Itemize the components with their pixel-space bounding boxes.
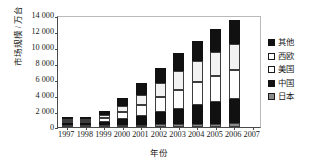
bar-segment-美国	[210, 76, 221, 102]
bar-segment-西欧	[155, 83, 166, 97]
y-tick-label: 8 000	[20, 60, 54, 68]
y-axis-tick-labels: 02 0004 0006 0008 00010 00012 00014 000	[16, 0, 54, 168]
bar-segment-日本	[155, 124, 166, 127]
legend-swatch-icon	[268, 53, 275, 60]
y-tick-label: 12 000	[20, 28, 54, 36]
bar-segment-日本	[173, 124, 184, 127]
bar-segment-西欧	[136, 95, 147, 105]
y-tick-mark	[55, 128, 58, 129]
bar-segment-中国	[136, 116, 147, 124]
bar-segment-中国	[192, 105, 203, 123]
bar-segment-日本	[192, 124, 203, 127]
bar-segment-西欧	[229, 44, 240, 70]
legend-item-label: 其他	[278, 38, 294, 47]
bar-segment-中国	[155, 112, 166, 124]
bar-segment-其他	[155, 68, 166, 83]
legend-swatch-icon	[268, 93, 275, 100]
legend-item-美国: 美国	[268, 63, 317, 77]
y-tick-label: 4 000	[20, 92, 54, 100]
stacked-bar-chart: 市场规模 / 万台 02 0004 0006 0008 00010 00012 …	[0, 0, 317, 168]
bar-1998	[80, 119, 91, 127]
legend-item-label: 西欧	[278, 52, 294, 61]
bar-segment-其他	[173, 53, 184, 71]
bar-segment-中国	[229, 99, 240, 123]
bar-segment-其他	[210, 29, 221, 51]
legend-item-label: 日本	[278, 92, 294, 101]
bar-segment-日本	[62, 125, 73, 127]
legend-swatch-icon	[268, 80, 275, 87]
bar-segment-西欧	[192, 61, 203, 83]
bar-2006	[229, 20, 240, 127]
y-tick-label: 14 000	[20, 12, 54, 20]
y-tick-label: 0	[20, 124, 54, 132]
y-tick-mark	[55, 113, 58, 114]
bar-segment-美国	[155, 97, 166, 112]
y-tick-mark	[55, 33, 58, 34]
x-axis-tick-labels: 1997199819992000200120022003200420052006…	[57, 130, 261, 144]
y-tick-label: 2 000	[20, 108, 54, 116]
legend-item-西欧: 西欧	[268, 50, 317, 64]
bar-segment-美国	[192, 82, 203, 105]
bar-segment-日本	[136, 125, 147, 127]
x-tick-label: 2007	[237, 130, 267, 140]
y-tick-mark	[55, 97, 58, 98]
bar-segment-日本	[117, 125, 128, 127]
legend-item-label: 中国	[278, 79, 294, 88]
legend-item-日本: 日本	[268, 90, 317, 104]
bar-segment-日本	[229, 123, 240, 127]
bar-segment-美国	[229, 70, 240, 99]
bar-segment-中国	[173, 109, 184, 124]
bar-2003	[173, 53, 184, 127]
bar-1997	[62, 125, 73, 127]
bar-segment-美国	[136, 105, 147, 116]
y-tick-mark	[55, 49, 58, 50]
bar-segment-其他	[117, 98, 128, 105]
bar-segment-其他	[229, 20, 240, 44]
bar-segment-中国	[210, 102, 221, 124]
bar-segment-日本	[210, 124, 221, 127]
legend-item-中国: 中国	[268, 77, 317, 91]
bar-2000	[117, 98, 128, 127]
bar-2002	[155, 68, 166, 127]
bar-segment-日本	[80, 125, 91, 127]
bar-segment-其他	[136, 83, 147, 95]
y-tick-label: 10 000	[20, 44, 54, 52]
y-tick-mark	[55, 81, 58, 82]
bar-segment-美国	[117, 112, 128, 119]
bar-2005	[210, 29, 221, 127]
bar-segment-西欧	[173, 71, 184, 89]
x-axis-title: 年份	[57, 148, 261, 158]
bar-2001	[136, 83, 147, 127]
legend-item-label: 美国	[278, 65, 294, 74]
bar-segment-日本	[99, 125, 110, 127]
legend-swatch-icon	[268, 66, 275, 73]
bar-segment-美国	[173, 90, 184, 109]
bar-segment-西欧	[210, 52, 221, 76]
chart-legend: 其他西欧美国中国日本	[268, 36, 317, 104]
bar-2004	[192, 41, 203, 127]
y-tick-label: 6 000	[20, 76, 54, 84]
bar-segment-其他	[192, 41, 203, 61]
legend-item-其他: 其他	[268, 36, 317, 50]
y-tick-mark	[55, 65, 58, 66]
plot-area	[57, 16, 261, 128]
legend-swatch-icon	[268, 39, 275, 46]
y-tick-mark	[55, 17, 58, 18]
bar-1999	[99, 111, 110, 127]
